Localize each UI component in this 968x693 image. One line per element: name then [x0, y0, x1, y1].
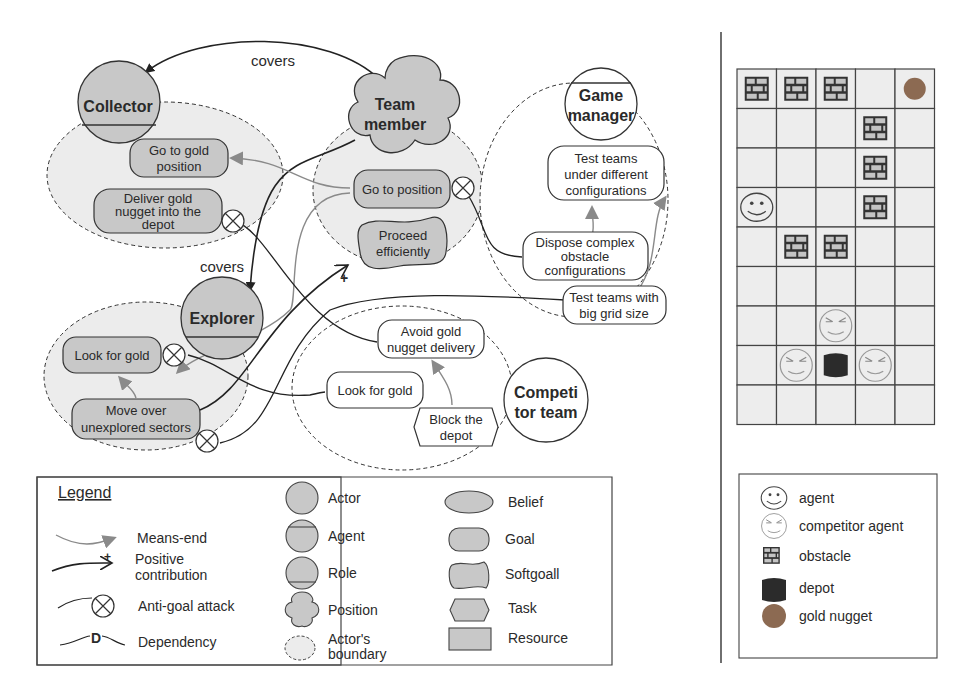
goal-label: nugget delivery — [387, 340, 476, 355]
agent-icon — [761, 487, 787, 509]
goal-label: depot — [142, 217, 175, 232]
gold-nugget-icon — [904, 78, 926, 100]
legend-resource: Resource — [508, 630, 568, 646]
belief-legend-icon — [445, 491, 493, 513]
goal-label: Look for gold — [337, 383, 412, 398]
obstacle-icon — [863, 195, 887, 219]
grid-cell — [737, 109, 777, 149]
obstacle-icon — [745, 77, 769, 101]
goal-avoid-delivery[interactable]: Avoid gold nugget delivery — [378, 320, 484, 358]
softgoal-label: efficiently — [376, 244, 430, 259]
grid-cell — [777, 148, 817, 188]
legend-title: Legend — [58, 484, 111, 501]
goal-label: configurations — [566, 183, 647, 198]
game-grid — [737, 69, 935, 425]
actor-game-manager[interactable]: Game manager — [565, 68, 637, 140]
anti-goal-legend-line — [58, 598, 92, 608]
task-legend-icon — [450, 599, 489, 621]
grid-cell — [895, 109, 935, 149]
goal-move-unexplored[interactable]: Move over unexplored sectors — [72, 399, 200, 439]
grid-cell — [737, 306, 777, 346]
grid-cell — [816, 109, 856, 149]
grid-legend-competitor: competitor agent — [799, 518, 903, 534]
anti-goal-attack-icon — [163, 344, 185, 366]
actor-competitor-team[interactable]: Competi tor team — [504, 358, 588, 442]
contribution-sign: + — [340, 270, 348, 286]
goal-test-big-grid[interactable]: Test teams with big grid size — [563, 286, 666, 324]
softgoal-label: Proceed — [379, 228, 427, 243]
grid-legend-obstacle: obstacle — [799, 548, 851, 564]
anti-goal-legend-icon — [92, 595, 114, 617]
grid-cell — [856, 267, 896, 307]
diagram-canvas: + covers covers Collector Team member Ga… — [0, 0, 968, 693]
grid-cell — [895, 385, 935, 425]
gold-nugget-icon — [762, 604, 786, 628]
grid-cell — [856, 346, 896, 386]
goal-label: Go to position — [362, 182, 442, 197]
obstacle-icon — [763, 547, 780, 564]
goal-label: configurations — [545, 263, 626, 278]
grid-legend-depot: depot — [799, 580, 834, 596]
goal-deliver-gold[interactable]: Deliver gold nugget into the depot — [94, 189, 222, 233]
goal-dispose-obstacles[interactable]: Dispose complex obstacle configurations — [523, 232, 648, 280]
grid-cell — [737, 267, 777, 307]
softgoal-legend-icon — [449, 562, 489, 588]
grid-cell — [895, 227, 935, 267]
task-block-depot[interactable]: Block the depot — [414, 408, 498, 446]
goal-legend-icon — [449, 528, 489, 551]
legend-agent: Agent — [328, 528, 365, 544]
grid-cell — [856, 69, 896, 109]
goal-go-to-position[interactable]: Go to position — [354, 170, 450, 208]
legend-boundary-line2: boundary — [328, 646, 386, 662]
goal-label: under different — [564, 167, 648, 182]
anti-goal-attack-icon — [222, 210, 244, 232]
legend-contribution-sign: + — [104, 550, 111, 564]
grid-cell — [856, 227, 896, 267]
grid-cell — [777, 109, 817, 149]
legend-actor: Actor — [328, 490, 361, 506]
competitor-team-name-line2: tor team — [514, 404, 577, 421]
covers-label-top: covers — [251, 52, 295, 69]
grid-legend-box — [739, 474, 937, 658]
grid-cell — [777, 346, 817, 386]
collector-name: Collector — [83, 98, 152, 115]
agent-legend-icon — [286, 520, 318, 552]
depot-icon — [762, 578, 786, 602]
grid-cell — [895, 346, 935, 386]
grid-cell — [816, 267, 856, 307]
obstacle-icon — [824, 77, 848, 101]
grid-legend-agent: agent — [799, 490, 834, 506]
legend-anti-goal: Anti-goal attack — [138, 598, 235, 614]
grid-cell — [777, 306, 817, 346]
goal-label: obstacle — [561, 249, 609, 264]
competitor-team-name-line1: Competi — [514, 384, 578, 401]
legend-belief: Belief — [508, 494, 543, 510]
grid-cell — [737, 385, 777, 425]
legend-position: Position — [328, 602, 378, 618]
obstacle-icon — [784, 235, 808, 259]
grid-cell — [895, 148, 935, 188]
actor-explorer[interactable]: Explorer — [181, 277, 263, 359]
actor-collector[interactable]: Collector — [78, 61, 160, 143]
positive-contribution-legend-icon — [52, 563, 112, 571]
grid-cell — [777, 267, 817, 307]
legend-dependency: Dependency — [138, 634, 217, 650]
goal-look-for-gold-explorer[interactable]: Look for gold — [63, 337, 161, 373]
position-legend-icon — [285, 592, 319, 627]
goal-look-for-gold-competitor[interactable]: Look for gold — [327, 372, 423, 408]
legend-means-end: Means-end — [137, 530, 207, 546]
grid-cell — [816, 385, 856, 425]
legend-positive-line1: Positive — [135, 551, 184, 567]
goal-label: Go to gold — [149, 143, 209, 158]
legend-goal: Goal — [505, 531, 535, 547]
goal-test-teams-configs[interactable]: Test teams under different configuration… — [548, 146, 664, 200]
legend-boundary-line1: Actor's — [328, 631, 370, 647]
softgoal-proceed-efficiently[interactable]: Proceed efficiently — [358, 217, 447, 268]
grid-cell — [856, 306, 896, 346]
goal-label: Dispose complex — [536, 235, 635, 250]
grid-cell — [737, 148, 777, 188]
goal-label: Look for gold — [74, 348, 149, 363]
goal-go-to-gold-position[interactable]: Go to gold position — [130, 139, 228, 177]
covers-label-mid: covers — [200, 258, 244, 275]
task-label: Block the — [429, 412, 482, 427]
